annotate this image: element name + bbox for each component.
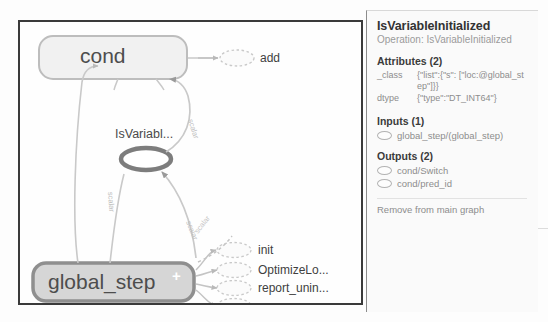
op-node-icon — [377, 166, 392, 175]
outputs-list: cond/Switch cond/pred_id — [377, 165, 527, 189]
panel-subtitle: Operation: IsVariableInitialized — [377, 34, 527, 45]
edge-label-text: scalar — [192, 214, 212, 236]
outputs-heading: Outputs (2) — [377, 150, 527, 162]
node-add-shape[interactable] — [220, 50, 254, 66]
graph-edge-group — [114, 79, 164, 90]
table-row: _class {"list":{"s": ["loc:@global_step"… — [377, 70, 527, 93]
node-optimizeloss-shape[interactable] — [217, 263, 251, 278]
attribute-value: {"list":{"s": ["loc:@global_step"]}} — [417, 70, 527, 93]
table-row: dtype {"type":"DT_INT64"} — [377, 93, 527, 106]
graph-edge-group — [110, 174, 124, 263]
graph-edge-group — [75, 66, 98, 263]
expand-plus-icon[interactable]: + — [172, 268, 181, 283]
inputs-list: global_step/(global_step) — [377, 130, 527, 141]
graph-edges-layer: scalar scalar scalar scalar — [20, 22, 363, 305]
attributes-table: _class {"list":{"s": ["loc:@global_step"… — [377, 70, 527, 106]
attributes-heading: Attributes (2) — [377, 55, 527, 67]
graph-edge-group — [162, 172, 196, 258]
op-node-icon — [377, 131, 392, 140]
node-cond-shape[interactable] — [39, 36, 187, 79]
edge-label-text: scalar — [106, 192, 116, 213]
attribute-key: dtype — [377, 93, 417, 106]
node-global-step-shape[interactable] — [33, 263, 194, 301]
node-isvariableinitialized-shape[interactable] — [121, 148, 171, 170]
node-save-shape[interactable] — [217, 299, 251, 306]
attribute-value: {"type":"DT_INT64"} — [417, 93, 527, 106]
op-node-icon — [377, 179, 392, 188]
list-item[interactable]: cond/Switch — [377, 165, 527, 176]
output-name: cond/Switch — [397, 165, 448, 176]
inputs-heading: Inputs (1) — [377, 115, 527, 127]
list-item[interactable]: global_step/(global_step) — [377, 130, 527, 141]
attribute-key: _class — [377, 70, 417, 93]
node-init-shape[interactable] — [217, 243, 251, 258]
edge-label-text: scalar — [186, 118, 201, 140]
panel-title: IsVariableInitialized — [377, 19, 527, 33]
node-info-panel: IsVariableInitialized Operation: IsVaria… — [366, 10, 538, 312]
graph-canvas[interactable]: scalar scalar scalar scalar cond add IsV… — [18, 20, 363, 305]
input-name: global_step/(global_step) — [397, 130, 503, 141]
list-item[interactable]: cond/pred_id — [377, 178, 527, 189]
node-report-uninit-shape[interactable] — [217, 281, 251, 296]
divider — [377, 198, 527, 199]
graph-edge-group — [166, 79, 190, 152]
output-name: cond/pred_id — [397, 178, 452, 189]
remove-from-main-graph-button[interactable]: Remove from main graph — [377, 204, 484, 215]
